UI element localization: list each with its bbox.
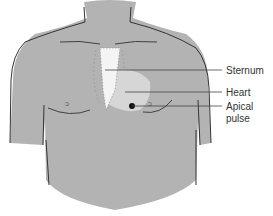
left-nipple: ͻ: [65, 99, 69, 108]
label-heart: Heart: [226, 87, 251, 98]
label-apical-pulse-line1: Apical: [226, 101, 253, 112]
label-sternum: Sternum: [226, 65, 264, 76]
torso-diagram: ͻ ͻ Sternum Heart Apical pulse: [0, 0, 273, 216]
right-nipple: ͻ: [148, 99, 152, 108]
label-apical-pulse-line2: pulse: [226, 113, 250, 124]
